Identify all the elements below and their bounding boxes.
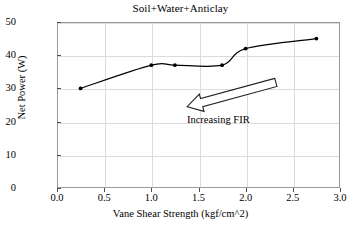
gridline-vertical [294,23,295,187]
gridline-horizontal [58,89,339,90]
gridline-vertical [247,23,248,187]
y-tickmark [57,22,61,23]
gridline-horizontal [58,23,339,24]
x-tick-label: 0.5 [84,192,124,203]
y-tick-label: 30 [0,83,16,93]
increasing-fir-label: Increasing FIR [187,114,250,125]
y-tick-label: 50 [0,17,16,27]
y-tickmark [57,55,61,56]
x-tick-label: 1.0 [131,192,171,203]
chart-title: Soil+Water+Anticlay [0,1,361,15]
x-tick-label: 2.5 [273,192,313,203]
plot-area [57,22,340,188]
x-tick-label: 3.0 [320,192,360,203]
gridline-horizontal [58,56,339,57]
y-axis-title: Net Power (W) [16,23,27,153]
gridline-vertical [152,23,153,187]
y-tick-label: 10 [0,150,16,160]
y-tick-label: 0 [0,183,16,193]
x-tick-label: 1.5 [179,192,219,203]
gridline-vertical [105,23,106,187]
chart-figure: Soil+Water+Anticlay 50 40 30 20 10 0 0.0… [0,0,361,239]
gridline-horizontal [58,156,339,157]
y-tick-label: 20 [0,117,16,127]
y-tick-label: 40 [0,50,16,60]
x-axis-title: Vane Shear Strength (kgf/cm^2) [0,208,361,219]
x-tick-label: 2.0 [226,192,266,203]
y-tickmark [57,122,61,123]
gridline-vertical [200,23,201,187]
y-tickmark [57,88,61,89]
y-tickmark [57,155,61,156]
x-tick-label: 0.0 [37,192,77,203]
